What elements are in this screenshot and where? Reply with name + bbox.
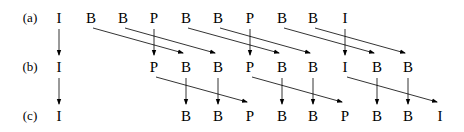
frame-B: B [277, 108, 287, 125]
frame-B: B [213, 10, 223, 27]
frame-B: B [372, 59, 382, 76]
frame-I: I [438, 108, 443, 125]
row-label: (a) [23, 10, 37, 26]
frame-B: B [372, 108, 382, 125]
row-label: (c) [23, 108, 37, 124]
frame-B: B [308, 108, 318, 125]
arrows-layer [0, 0, 464, 132]
frame-B: B [118, 10, 128, 27]
frame-P: P [246, 108, 254, 125]
reorder-arrow [156, 77, 247, 102]
frame-B: B [403, 59, 413, 76]
frame-B: B [213, 108, 223, 125]
row-label: (b) [22, 59, 37, 75]
frame-B: B [308, 59, 318, 76]
frame-B: B [277, 59, 287, 76]
reorder-arrow [252, 77, 342, 102]
frame-I: I [343, 59, 348, 76]
frame-I: I [57, 59, 62, 76]
frame-P: P [341, 108, 349, 125]
frame-reordering-diagram: (a)IBBPBBPBBI(b)IPBBPBBIBB(c)IBBPBBPBBI [0, 0, 464, 132]
frame-P: P [246, 59, 254, 76]
frame-B: B [308, 10, 318, 27]
reorder-arrow [347, 77, 437, 102]
frame-B: B [213, 59, 223, 76]
frame-B: B [181, 108, 191, 125]
frame-I: I [57, 10, 62, 27]
frame-B: B [181, 10, 191, 27]
frame-B: B [277, 10, 287, 27]
frame-I: I [343, 10, 348, 27]
frame-B: B [181, 59, 191, 76]
frame-P: P [150, 10, 158, 27]
frame-B: B [86, 10, 96, 27]
frame-B: B [403, 108, 413, 125]
frame-P: P [150, 59, 158, 76]
frame-P: P [246, 10, 254, 27]
frame-I: I [57, 108, 62, 125]
